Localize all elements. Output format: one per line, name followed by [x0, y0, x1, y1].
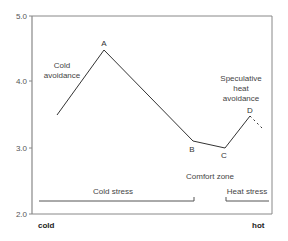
comfort-zone-label: Comfort zone	[186, 172, 235, 181]
point-label-a: A	[101, 39, 107, 48]
cold-stress-range: Cold stress	[39, 187, 194, 201]
point-label-c: C	[221, 151, 227, 160]
cold-avoidance-line1: Cold	[54, 61, 70, 70]
y-tick-3: 3.0	[16, 144, 28, 153]
heat-stress-label: Heat stress	[227, 187, 267, 196]
spec-heat-line3: avoidance	[223, 94, 260, 103]
cold-stress-label: Cold stress	[93, 187, 133, 196]
data-line	[57, 50, 250, 148]
chart: 5.0 4.0 3.0 2.0 A B C D Cold avoidance S…	[0, 0, 288, 241]
y-tick-4: 4.0	[16, 77, 28, 86]
point-label-d: D	[247, 106, 253, 115]
data-line-dotted	[250, 116, 263, 129]
y-tick-2: 2.0	[16, 210, 28, 219]
spec-heat-line2: heat	[233, 84, 249, 93]
spec-heat-line1: Speculative	[220, 74, 262, 83]
x-label-hot: hot	[252, 221, 265, 230]
point-label-b: B	[189, 145, 194, 154]
y-axis: 5.0 4.0 3.0 2.0	[16, 12, 32, 219]
heat-stress-range: Heat stress	[226, 187, 269, 201]
x-label-cold: cold	[38, 221, 55, 230]
y-tick-5: 5.0	[16, 12, 28, 21]
cold-avoidance-line2: avoidance	[44, 71, 81, 80]
plot-frame	[32, 16, 272, 214]
